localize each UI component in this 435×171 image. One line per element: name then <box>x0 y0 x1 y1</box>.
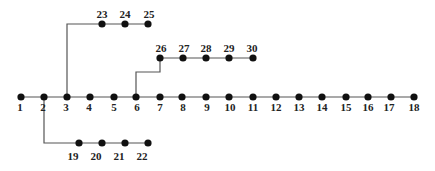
bus-label-8: 8 <box>180 101 186 113</box>
bus-node-15 <box>342 93 349 100</box>
bus-node-2 <box>40 93 47 100</box>
bus-node-4 <box>86 93 93 100</box>
bus-label-23: 23 <box>97 8 109 20</box>
bus-label-22: 22 <box>137 150 149 162</box>
bus-node-12 <box>272 93 279 100</box>
bus-node-11 <box>249 93 256 100</box>
bus-node-3 <box>63 93 70 100</box>
bus-label-28: 28 <box>201 42 213 54</box>
bus-label-1: 1 <box>17 101 23 113</box>
bus-node-8 <box>178 93 185 100</box>
bus-label-21: 21 <box>114 150 125 162</box>
bus-label-19: 19 <box>68 150 80 162</box>
bus-node-30 <box>249 54 256 61</box>
bus-node-10 <box>225 93 232 100</box>
bus-nodes <box>17 20 417 146</box>
bus-label-24: 24 <box>120 8 132 20</box>
bus-node-19 <box>75 139 82 146</box>
bus-label-7: 7 <box>157 101 163 113</box>
bus-label-9: 9 <box>204 101 210 113</box>
bus-node-21 <box>121 139 128 146</box>
feeder-lines <box>21 24 414 143</box>
bus-label-25: 25 <box>144 8 156 20</box>
bus-node-1 <box>17 93 24 100</box>
bus-node-24 <box>121 20 128 27</box>
bus-labels: 1234567891011121314151617181920212223242… <box>17 8 420 162</box>
bus-label-17: 17 <box>384 101 396 113</box>
bus-node-14 <box>318 93 325 100</box>
bus-label-6: 6 <box>134 101 140 113</box>
bus-node-20 <box>98 139 105 146</box>
bus-label-12: 12 <box>271 101 283 113</box>
bus-label-2: 2 <box>40 101 46 113</box>
bus-label-15: 15 <box>341 101 353 113</box>
bus-node-18 <box>410 93 417 100</box>
lateral-2-19-line <box>44 97 148 143</box>
bus-label-26: 26 <box>156 42 168 54</box>
bus-label-29: 29 <box>224 42 236 54</box>
bus-label-4: 4 <box>86 101 92 113</box>
bus-node-27 <box>179 54 186 61</box>
bus-node-6 <box>132 93 139 100</box>
bus-node-13 <box>295 93 302 100</box>
network-diagram: 1234567891011121314151617181920212223242… <box>0 0 435 171</box>
bus-label-13: 13 <box>294 101 306 113</box>
bus-node-23 <box>98 20 105 27</box>
bus-label-14: 14 <box>317 101 329 113</box>
bus-label-5: 5 <box>111 101 117 113</box>
bus-node-29 <box>225 54 232 61</box>
bus-node-5 <box>110 93 117 100</box>
bus-node-25 <box>144 20 151 27</box>
bus-label-18: 18 <box>409 101 421 113</box>
bus-node-26 <box>156 54 163 61</box>
bus-label-10: 10 <box>225 101 237 113</box>
bus-node-16 <box>364 93 371 100</box>
lateral-6-26-line <box>136 58 253 97</box>
bus-node-28 <box>202 54 209 61</box>
bus-label-30: 30 <box>247 42 259 54</box>
bus-node-17 <box>387 93 394 100</box>
bus-node-7 <box>156 93 163 100</box>
bus-label-11: 11 <box>248 101 258 113</box>
bus-label-27: 27 <box>179 42 191 54</box>
bus-node-22 <box>144 139 151 146</box>
bus-label-16: 16 <box>363 101 375 113</box>
bus-label-20: 20 <box>91 150 103 162</box>
bus-label-3: 3 <box>63 101 69 113</box>
bus-node-9 <box>202 93 209 100</box>
